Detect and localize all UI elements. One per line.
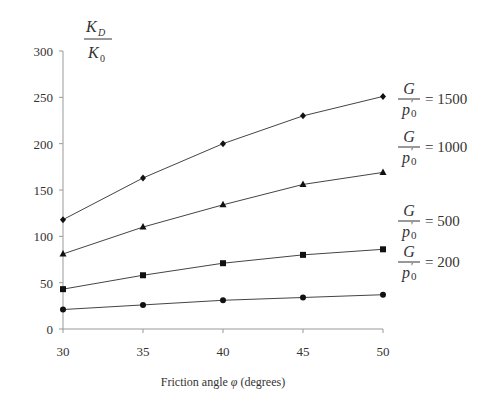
ylabel-numerator: K [85,18,98,35]
y-tick-label: 250 [34,90,54,105]
legend-value: = 500 [425,213,460,229]
legend-denominator: p [401,149,410,167]
y-tick-label: 50 [40,276,53,291]
y-tick-label: 300 [34,44,54,59]
legend-denominator: p [401,223,410,241]
legend-denominator: p [401,264,410,282]
x-tick-label: 30 [57,344,70,359]
legend-sub: 0 [411,107,417,119]
circle-marker [220,297,226,303]
legend-item: Gp′0= 1000 [398,128,467,167]
x-tick-label: 45 [297,344,310,359]
x-axis-label: Friction angle φ (degrees) [161,375,285,389]
y-tick-label: 100 [34,229,54,244]
diamond-marker [300,112,306,119]
legend-numerator: G [403,243,415,260]
legend-numerator: G [403,202,415,219]
x-tick-label: 35 [137,344,150,359]
diamond-marker [60,216,66,223]
ylabel-denominator-sub: 0 [100,53,105,64]
legend-value: = 1500 [425,91,467,107]
ylabel-denominator: K [87,44,100,61]
chart: 0501001502002503003035404550 Gp′0= 1500G… [0,0,495,408]
circle-marker [300,294,306,300]
square-marker [380,246,386,252]
y-tick-label: 200 [34,137,54,152]
triangle-marker [380,168,387,175]
axes: 0501001502002503003035404550 [34,44,390,359]
legend-item: Gp′0= 500 [398,202,460,241]
series-line [63,249,383,289]
circle-marker [60,307,66,313]
square-marker [220,260,226,266]
x-tick-label: 40 [217,344,230,359]
legend-item: Gp′0= 200 [398,243,460,282]
legend-sub: 0 [411,270,417,282]
legend-value: = 200 [425,254,460,270]
y-tick-label: 0 [47,322,54,337]
legend-value: = 1000 [425,139,467,155]
legend-sub: 0 [411,229,417,241]
legend: Gp′0= 1500Gp′0= 1000Gp′0= 500Gp′0= 200 [398,80,467,282]
ylabel-numerator-sub: D [97,27,106,38]
diamond-marker [220,140,226,147]
series-line [63,172,383,254]
square-marker [300,252,306,258]
y-axis-label: K D K 0 [84,18,112,64]
y-tick-label: 150 [34,183,54,198]
circle-marker [140,302,146,308]
legend-numerator: G [403,128,415,145]
legend-item: Gp′0= 1500 [398,80,467,119]
legend-sub: 0 [411,155,417,167]
legend-numerator: G [403,80,415,97]
x-tick-label: 50 [377,344,390,359]
series-group [60,93,387,313]
diamond-marker [140,174,146,181]
diamond-marker [380,93,386,100]
square-marker [60,286,66,292]
legend-denominator: p [401,101,410,119]
circle-marker [380,292,386,298]
square-marker [140,272,146,278]
